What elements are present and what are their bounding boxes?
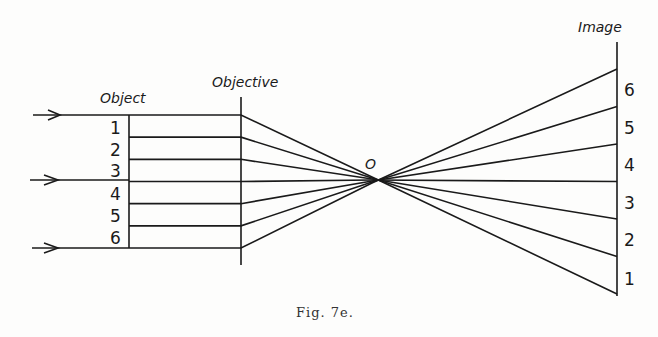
figure-caption: Fig. 7e. bbox=[296, 305, 354, 320]
rays bbox=[129, 69, 617, 294]
image-number: 1 bbox=[624, 269, 635, 289]
object-label: Object bbox=[100, 90, 146, 106]
object-numbers: 1 2 3 4 5 6 bbox=[110, 118, 121, 248]
object-number: 1 bbox=[110, 118, 121, 138]
object-number: 4 bbox=[110, 184, 121, 204]
image-number: 4 bbox=[624, 155, 635, 175]
object-number: 6 bbox=[110, 228, 121, 248]
object-number: 2 bbox=[110, 140, 121, 160]
focal-point-label: O bbox=[365, 156, 376, 172]
object-number: 3 bbox=[110, 161, 121, 181]
optics-diagram: Object Objective O Image 1 2 3 4 5 6 6 5… bbox=[0, 0, 658, 337]
image-number: 5 bbox=[624, 118, 635, 138]
object-number: 5 bbox=[110, 206, 121, 226]
light-ray bbox=[129, 144, 617, 204]
image-label: Image bbox=[578, 19, 622, 35]
objective-label: Objective bbox=[212, 74, 278, 90]
image-number: 6 bbox=[624, 80, 635, 100]
image-number: 3 bbox=[624, 193, 635, 213]
image-number: 2 bbox=[624, 230, 635, 250]
light-ray bbox=[129, 115, 617, 294]
image-numbers: 6 5 4 3 2 1 bbox=[624, 80, 635, 289]
figure-7e: Object Objective O Image 1 2 3 4 5 6 6 5… bbox=[0, 0, 658, 337]
